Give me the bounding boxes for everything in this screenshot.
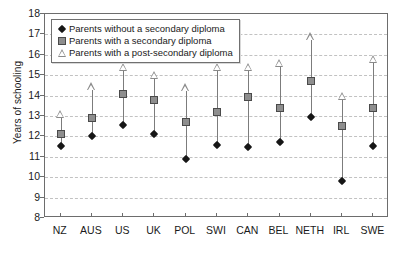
y-axis-tick-mark xyxy=(40,217,44,218)
y-axis-tick-label: 12 xyxy=(0,130,40,140)
triangle-marker-swi xyxy=(213,63,221,71)
diamond-marker-swi xyxy=(213,140,221,148)
triangle-marker-swe xyxy=(369,55,377,63)
square-marker-bel xyxy=(276,104,284,112)
x-axis-tick-mark xyxy=(279,213,280,217)
diamond-marker-aus xyxy=(88,132,96,140)
chart-container: Years of schooling 89101112131415161718 … xyxy=(0,0,409,261)
x-axis-tick-mark xyxy=(122,213,123,217)
y-axis-tick-label: 15 xyxy=(0,69,40,79)
square-marker-swi xyxy=(213,108,221,116)
x-axis-tick-mark xyxy=(341,213,342,217)
y-axis-tick-label: 11 xyxy=(0,151,40,161)
legend-item: Parents without a secondary diploma xyxy=(56,23,233,35)
gridline xyxy=(45,116,387,117)
series-connector-aus xyxy=(92,86,93,136)
square-marker-irl xyxy=(338,122,346,130)
x-axis-tick-mark xyxy=(91,213,92,217)
square-marker-us xyxy=(119,90,127,98)
x-axis-tick-mark xyxy=(216,213,217,217)
triangle-marker-uk xyxy=(150,71,158,79)
square-marker-uk xyxy=(150,96,158,104)
gridline xyxy=(45,96,387,97)
legend-item: Parents with a post-secondary diploma xyxy=(56,47,233,59)
y-axis-title: Years of schooling xyxy=(12,43,23,163)
triangle-marker-icon xyxy=(56,47,69,59)
square-marker-swe xyxy=(369,104,377,112)
square-marker-neth xyxy=(307,77,315,85)
series-connector-uk xyxy=(154,75,155,134)
square-marker-aus xyxy=(88,114,96,122)
series-connector-irl xyxy=(342,96,343,182)
x-axis-tick-label-swe: SWE xyxy=(342,224,402,236)
triangle-marker-nz xyxy=(56,110,64,118)
gridline xyxy=(45,198,387,199)
y-axis-tick-label: 8 xyxy=(0,212,40,222)
x-axis-tick-mark xyxy=(153,213,154,217)
triangle-marker-us xyxy=(119,63,127,71)
diamond-marker-nz xyxy=(56,141,64,149)
y-axis-tick-label: 10 xyxy=(0,171,40,181)
square-marker-nz xyxy=(57,130,65,138)
series-connector-swi xyxy=(217,67,218,145)
x-axis-tick-mark xyxy=(60,213,61,217)
gridline xyxy=(45,177,387,178)
series-connector-bel xyxy=(280,63,281,142)
triangle-marker-pol xyxy=(181,83,189,91)
legend-item-label: Parents with a post-secondary diploma xyxy=(69,47,233,59)
series-connector-swe xyxy=(373,59,374,146)
diamond-marker-neth xyxy=(307,113,315,121)
diamond-marker-swe xyxy=(369,141,377,149)
triangle-marker-aus xyxy=(87,82,95,90)
legend-item: Parents with a secondary diploma xyxy=(56,35,233,47)
triangle-marker-neth xyxy=(306,32,314,40)
square-marker-pol xyxy=(182,118,190,126)
square-marker-can xyxy=(244,93,252,101)
x-axis-tick-mark xyxy=(372,213,373,217)
y-axis-tick-label: 14 xyxy=(0,90,40,100)
gridline xyxy=(45,136,387,137)
legend-item-label: Parents with a secondary diploma xyxy=(69,35,212,47)
square-marker-icon xyxy=(56,35,69,47)
diamond-marker-irl xyxy=(338,177,346,185)
y-axis-tick-label: 17 xyxy=(0,28,40,38)
x-axis-tick-mark xyxy=(310,213,311,217)
legend-item-label: Parents without a secondary diploma xyxy=(69,23,225,35)
triangle-marker-bel xyxy=(275,59,283,67)
series-connector-can xyxy=(248,67,249,147)
diamond-marker-us xyxy=(119,121,127,129)
gridline xyxy=(45,75,387,76)
diamond-marker-can xyxy=(244,142,252,150)
y-axis-tick-label: 16 xyxy=(0,49,40,59)
y-axis-tick-label: 13 xyxy=(0,110,40,120)
diamond-marker-icon xyxy=(56,23,69,35)
triangle-marker-can xyxy=(244,63,252,71)
gridline xyxy=(45,157,387,158)
y-axis-tick-label: 9 xyxy=(0,192,40,202)
x-axis-tick-mark xyxy=(247,213,248,217)
chart-legend: Parents without a secondary diplomaParen… xyxy=(51,19,240,63)
diamond-marker-bel xyxy=(275,137,283,145)
triangle-marker-irl xyxy=(338,92,346,100)
x-axis-tick-mark xyxy=(185,213,186,217)
y-axis-tick-label: 18 xyxy=(0,8,40,18)
